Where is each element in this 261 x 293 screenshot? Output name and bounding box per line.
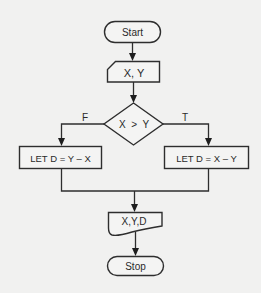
true-process-label: LET D = X – Y — [176, 153, 237, 164]
false-process-label: LET D = Y – X — [30, 153, 91, 164]
flowchart-canvas: Start X, Y X > Y F — [0, 0, 261, 293]
flowchart-svg: Start X, Y X > Y F — [0, 0, 261, 293]
start-terminal: Start — [105, 22, 161, 43]
arrow-input-to-decision — [130, 82, 137, 103]
input-label: X, Y — [124, 67, 145, 79]
arrow-start-to-input — [129, 43, 136, 62]
output-label: X,Y,D — [122, 216, 147, 227]
start-label: Start — [122, 27, 143, 38]
stop-label: Stop — [125, 261, 146, 272]
false-process-box: LET D = Y – X — [20, 147, 102, 169]
stop-terminal: Stop — [108, 257, 164, 276]
true-label: T — [182, 112, 188, 123]
arrow-output-to-stop — [132, 232, 139, 256]
decision-node: X > Y — [104, 103, 163, 145]
false-label: F — [82, 112, 88, 123]
merge-connector — [62, 169, 209, 213]
false-branch: F — [58, 112, 104, 146]
input-node: X, Y — [108, 62, 160, 83]
decision-label: X > Y — [119, 119, 149, 130]
true-branch: T — [163, 112, 212, 146]
true-process-box: LET D = X – Y — [165, 147, 249, 169]
output-node: X,Y,D — [109, 213, 163, 236]
